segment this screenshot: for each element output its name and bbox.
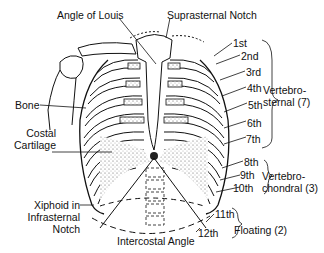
label-vertebrosternal-line1: Vertebro- xyxy=(263,85,306,96)
label-xiphoid-line2: Infrasternal xyxy=(10,212,80,223)
label-rib-5: 5th xyxy=(248,100,263,111)
label-vertebrochondral-line1: Vertebro- xyxy=(262,171,305,182)
label-vertebrochondral-line2: chondral (3) xyxy=(262,183,318,194)
label-bone: Bone xyxy=(15,100,40,111)
label-rib-1: 1st xyxy=(233,38,247,49)
label-rib-10: 10th xyxy=(233,183,253,194)
label-rib-8: 8th xyxy=(244,157,259,168)
label-rib-12: 12th xyxy=(198,228,218,239)
label-intercostal-angle: Intercostal Angle xyxy=(117,236,195,247)
label-rib-4: 4th xyxy=(247,83,262,94)
label-xiphoid-line1: Xiphoid in xyxy=(10,200,80,211)
label-rib-9: 9th xyxy=(240,170,255,181)
label-costal-cartilage-line2: Cartilage xyxy=(10,140,56,151)
label-rib-2: 2nd xyxy=(241,51,259,62)
label-rib-6: 6th xyxy=(247,118,262,129)
label-floating: Floating (2) xyxy=(234,225,287,236)
label-xiphoid-line3: Notch xyxy=(10,224,80,235)
rib-cage-diagram: Angle of Louis Suprasternal Notch Bone C… xyxy=(0,0,324,253)
label-angle-of-louis: Angle of Louis xyxy=(57,10,124,21)
label-suprasternal-notch: Suprasternal Notch xyxy=(167,10,257,21)
label-rib-7: 7th xyxy=(246,134,261,145)
label-rib-3: 3rd xyxy=(246,67,261,78)
label-costal-cartilage-line1: Costal xyxy=(10,128,56,139)
label-vertebrosternal-line2: sternal (7) xyxy=(263,97,310,108)
label-rib-11: 11th xyxy=(215,209,235,220)
